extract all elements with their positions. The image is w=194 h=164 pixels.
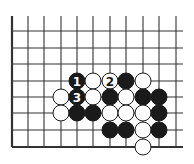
black-stone: 1 — [69, 73, 85, 89]
move-number-label: 2 — [106, 75, 114, 89]
black-stone — [102, 122, 118, 138]
black-stone — [135, 89, 151, 105]
white-stone — [85, 89, 101, 105]
black-stone — [102, 89, 118, 105]
black-stone — [69, 105, 85, 121]
black-stone — [151, 89, 167, 105]
white-stone — [118, 89, 134, 105]
black-stone — [151, 122, 167, 138]
black-stone — [118, 73, 134, 89]
black-stone — [151, 105, 167, 121]
white-stone — [135, 73, 151, 89]
move-number-label: 1 — [73, 75, 81, 89]
black-stone — [118, 122, 134, 138]
white-stone — [85, 73, 101, 89]
go-board-diagram: 123 — [0, 0, 194, 164]
white-stone — [102, 105, 118, 121]
white-stone — [135, 105, 151, 121]
white-stone — [135, 122, 151, 138]
black-stone: 3 — [69, 89, 85, 105]
white-stone: 2 — [102, 73, 118, 89]
white-stone — [135, 139, 151, 155]
move-number-label: 3 — [73, 91, 81, 105]
white-stone — [53, 89, 69, 105]
white-stone — [53, 105, 69, 121]
white-stone — [118, 105, 134, 121]
black-stone — [85, 105, 101, 121]
